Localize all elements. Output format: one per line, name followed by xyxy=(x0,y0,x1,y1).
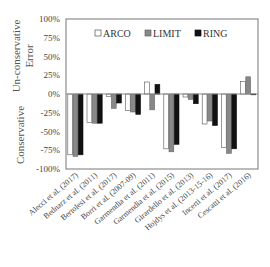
y-tick-label: -100% xyxy=(36,164,60,174)
bar-arco xyxy=(221,94,226,147)
x-axis-labels: Alecci et al. (2017)Bednarz et al. (2011… xyxy=(27,170,253,232)
bar-ring xyxy=(97,94,102,123)
bar-ring xyxy=(78,94,83,155)
y-tick-label: 50% xyxy=(44,52,61,62)
bar-ring xyxy=(117,94,122,103)
legend: ARCOLIMITRING xyxy=(95,28,227,39)
bar-limit xyxy=(207,94,212,121)
y-axis-title-unconservative: Un-conservative xyxy=(10,20,22,93)
bar-arco xyxy=(87,94,92,123)
legend-swatch-arco xyxy=(95,30,101,36)
y-axis-title-error: Error xyxy=(23,44,35,68)
y-axis-titles: Un-conservativeErrorConservative xyxy=(10,20,35,164)
legend-label-limit: LIMIT xyxy=(153,28,181,39)
y-tick-label: 75% xyxy=(44,33,61,43)
y-tick-label: -75% xyxy=(41,145,61,155)
bar-arco xyxy=(68,94,73,155)
y-tick-label: -25% xyxy=(41,108,61,118)
bar-limit xyxy=(73,94,78,156)
bar-limit xyxy=(227,94,232,153)
bar-limit xyxy=(92,94,97,123)
bar-limit xyxy=(188,94,193,99)
bar-ring xyxy=(136,94,141,114)
bar-arco xyxy=(164,94,169,149)
bar-limit xyxy=(169,94,174,152)
y-tick-label: 25% xyxy=(44,70,61,80)
bar-ring xyxy=(193,94,198,104)
y-axis-title-conservative: Conservative xyxy=(14,106,26,164)
y-tick-label: 0% xyxy=(48,89,61,99)
y-axis-ticks: 100%75%50%25%0%-25%-50%-75%-100% xyxy=(36,14,61,174)
bar-limit xyxy=(246,77,251,94)
legend-swatch-ring xyxy=(195,30,201,36)
bar-limit xyxy=(111,94,116,108)
legend-label-arco: ARCO xyxy=(103,28,131,39)
bar-ring xyxy=(155,84,160,94)
bar-arco xyxy=(202,94,207,124)
legend-swatch-limit xyxy=(145,30,151,36)
bar-limit xyxy=(150,94,155,110)
bar-arco xyxy=(241,81,246,94)
y-tick-label: 100% xyxy=(39,14,61,24)
bar-ring xyxy=(174,94,179,144)
bar-chart: Un-conservativeErrorConservative 100%75%… xyxy=(0,0,270,267)
bar-ring xyxy=(232,94,237,149)
bar-arco xyxy=(145,82,150,94)
bar-arco xyxy=(125,94,130,111)
y-tick-label: -50% xyxy=(41,127,61,137)
bar-ring xyxy=(213,94,218,126)
legend-label-ring: RING xyxy=(203,28,227,39)
bar-limit xyxy=(131,94,136,112)
